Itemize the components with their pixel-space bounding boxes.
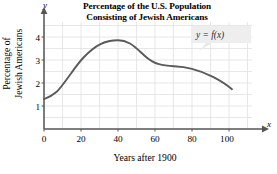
function-annotation: y = f(x) <box>196 30 224 40</box>
y-axis-arrow-icon <box>41 7 48 14</box>
chart-figure: Percentage of the U.S. Population Consis… <box>0 0 277 174</box>
plot-area <box>0 0 277 174</box>
data-curve <box>44 40 232 99</box>
x-axis-arrow-icon <box>262 126 269 133</box>
